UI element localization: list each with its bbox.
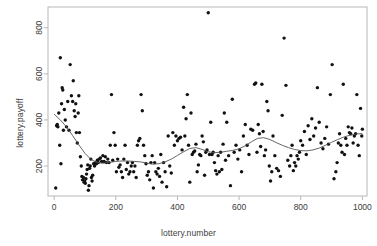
data-point <box>332 177 335 180</box>
data-point <box>294 164 297 167</box>
data-point <box>220 168 223 171</box>
data-point <box>77 111 80 114</box>
data-point <box>251 129 254 132</box>
data-point <box>284 84 287 87</box>
data-point <box>180 148 183 151</box>
data-point <box>321 147 324 150</box>
data-point <box>187 144 190 147</box>
x-tick-label: 600 <box>232 202 246 212</box>
x-axis-ticks <box>54 196 362 200</box>
data-point <box>194 142 197 145</box>
data-point <box>323 137 326 140</box>
data-point <box>138 137 141 140</box>
data-point <box>303 130 306 133</box>
data-point <box>80 164 83 167</box>
y-axis-tick-labels: 200400600800 <box>34 20 44 173</box>
data-point <box>150 154 153 157</box>
data-point <box>152 186 155 189</box>
data-point <box>61 88 64 91</box>
data-point <box>312 134 315 137</box>
data-point <box>358 154 361 157</box>
data-point <box>339 144 342 147</box>
data-point <box>334 170 337 173</box>
x-axis-title: lottery.number <box>0 228 377 238</box>
x-tick-label: 400 <box>170 202 184 212</box>
data-point <box>264 148 267 151</box>
data-point <box>310 117 313 120</box>
data-point <box>136 144 139 147</box>
data-point <box>316 86 319 89</box>
data-point <box>72 79 75 82</box>
data-point <box>289 154 292 157</box>
data-point <box>134 176 137 179</box>
data-point <box>318 121 321 124</box>
data-point <box>202 140 205 143</box>
y-tick-label: 400 <box>34 113 44 127</box>
data-point <box>132 170 135 173</box>
data-point <box>148 178 151 181</box>
data-point <box>343 153 346 156</box>
data-point <box>147 170 150 173</box>
data-point <box>90 179 93 182</box>
data-point <box>71 100 74 103</box>
data-point <box>121 176 124 179</box>
data-point <box>271 134 274 137</box>
data-point <box>255 151 258 154</box>
data-point <box>330 63 333 66</box>
data-point <box>73 109 76 112</box>
data-point <box>355 93 358 96</box>
data-point <box>62 129 65 132</box>
data-point <box>128 170 131 173</box>
data-point <box>293 161 296 164</box>
data-point <box>350 126 353 129</box>
data-point <box>335 161 338 164</box>
data-point <box>295 154 298 157</box>
data-point <box>360 134 363 137</box>
data-point <box>242 134 245 137</box>
data-point <box>157 167 160 170</box>
data-point <box>260 83 263 86</box>
data-point <box>257 123 260 126</box>
data-point <box>163 170 166 173</box>
data-point <box>167 134 170 137</box>
data-point <box>109 144 112 147</box>
data-point <box>54 186 57 189</box>
data-point <box>265 100 268 103</box>
plot-frame <box>48 7 367 196</box>
data-point <box>158 175 161 178</box>
data-point <box>279 175 282 178</box>
data-point <box>286 159 289 162</box>
data-point <box>232 151 235 154</box>
data-point <box>118 163 121 166</box>
data-point <box>199 154 202 157</box>
data-point <box>261 130 264 133</box>
data-point <box>142 144 145 147</box>
y-tick-label: 600 <box>34 66 44 80</box>
data-point <box>197 163 200 166</box>
data-point <box>216 154 219 157</box>
y-tick-label: 800 <box>34 20 44 34</box>
data-point <box>79 155 82 158</box>
data-point <box>123 144 126 147</box>
data-point <box>120 170 123 173</box>
data-point <box>143 154 146 157</box>
data-point <box>347 125 350 128</box>
data-point <box>223 111 226 114</box>
data-point <box>84 177 87 180</box>
data-point <box>182 106 185 109</box>
data-point <box>184 117 187 120</box>
data-point <box>106 157 109 160</box>
data-point <box>73 115 76 118</box>
data-point <box>281 114 284 117</box>
data-point <box>314 126 317 129</box>
data-point <box>338 132 341 135</box>
data-point <box>247 153 250 156</box>
scatter-plot-figure: 02004006008001000 200400600800 lottery.n… <box>0 0 377 246</box>
data-point <box>85 172 88 175</box>
x-axis-tick-labels: 02004006008001000 <box>52 202 372 212</box>
data-point <box>213 161 216 164</box>
data-point <box>227 154 230 157</box>
data-point <box>110 93 113 96</box>
data-point <box>306 124 309 127</box>
data-point <box>301 144 304 147</box>
